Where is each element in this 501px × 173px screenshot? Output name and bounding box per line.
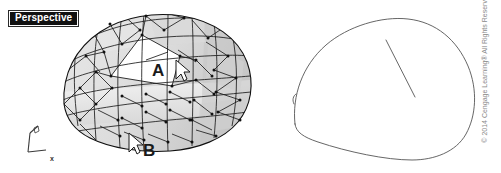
- figure-canvas: Perspective A B x © 2014 Cengage Learnin…: [0, 0, 501, 173]
- copyright-notice: © 2014 Cengage Learning® All Rights Rese…: [480, 0, 487, 143]
- axis-indicator: [28, 126, 46, 152]
- annotation-label-a: A: [152, 62, 164, 79]
- axis-x-label: x: [50, 155, 54, 162]
- reference-outline-drawing: [293, 18, 475, 160]
- viewport-label[interactable]: Perspective: [8, 10, 79, 27]
- annotation-label-b: B: [143, 142, 155, 159]
